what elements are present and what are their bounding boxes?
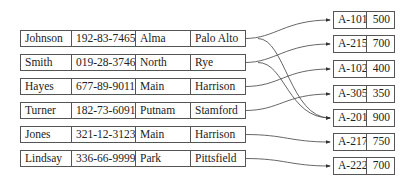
account-a222: A-222 700 bbox=[333, 157, 395, 175]
account-a215: A-215 700 bbox=[333, 35, 395, 53]
account-a201: A-201 900 bbox=[333, 109, 395, 127]
arrow-smith-a215 bbox=[245, 44, 330, 63]
arrow-lindsay-a222 bbox=[245, 159, 330, 167]
account-number: A-222 bbox=[334, 158, 366, 174]
arrow-turner-a305 bbox=[245, 94, 330, 111]
account-a305: A-305 350 bbox=[333, 85, 395, 103]
arrow-johnson-a101 bbox=[245, 20, 330, 39]
account-number: A-101 bbox=[334, 12, 366, 28]
account-balance: 900 bbox=[366, 110, 394, 126]
arrow-johnson-a201 bbox=[258, 39, 330, 119]
account-a102: A-102 400 bbox=[333, 60, 395, 78]
account-balance: 700 bbox=[366, 158, 394, 174]
arrow-hayes-a102 bbox=[245, 69, 330, 87]
account-number: A-102 bbox=[334, 61, 366, 77]
account-balance: 700 bbox=[366, 36, 394, 52]
account-balance: 500 bbox=[366, 12, 394, 28]
account-balance: 750 bbox=[366, 134, 394, 150]
account-number: A-215 bbox=[334, 36, 366, 52]
account-balance: 350 bbox=[366, 86, 394, 102]
account-number: A-217 bbox=[334, 134, 366, 150]
account-a217: A-217 750 bbox=[333, 133, 395, 151]
arrow-smith-a201 bbox=[258, 63, 330, 119]
account-a101: A-101 500 bbox=[333, 11, 395, 29]
account-number: A-201 bbox=[334, 110, 366, 126]
account-balance: 400 bbox=[366, 61, 394, 77]
account-number: A-305 bbox=[334, 86, 366, 102]
arrow-jones-a217 bbox=[245, 135, 330, 143]
